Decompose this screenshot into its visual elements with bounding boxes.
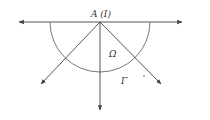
ray-left [41, 22, 100, 84]
marker-dot [143, 75, 145, 77]
diagram-canvas: A (I) Ω Γ [0, 0, 210, 120]
apex-label: A (I) [90, 9, 111, 19]
boundary-label: Γ [120, 76, 128, 86]
region-label: Ω [108, 49, 117, 59]
